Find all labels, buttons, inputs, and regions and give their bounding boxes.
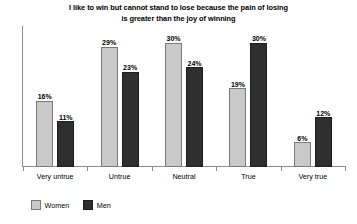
- bar-value-label: 6%: [297, 135, 307, 142]
- bar-group: 19%30%: [216, 26, 280, 167]
- bar-men-very-true[interactable]: 12%: [315, 117, 332, 167]
- category-label-very-untrue: Very untrue: [23, 172, 87, 181]
- chart-legend: Women Men: [31, 200, 111, 210]
- bar-value-label: 11%: [59, 114, 73, 121]
- chart-title-line-1: I like to win but cannot stand to lose b…: [0, 3, 357, 14]
- axis-tick: [345, 167, 346, 171]
- bar-value-label: 30%: [252, 35, 266, 42]
- chart-title-line-2: is greater than the joy of winning: [0, 14, 357, 25]
- bar-group: 16%11%: [23, 26, 87, 167]
- bar-women-very-true[interactable]: 6%: [294, 142, 311, 167]
- bar-value-label: 19%: [231, 81, 245, 88]
- bar-slot: 19%: [229, 26, 246, 167]
- bar-group: 6%12%: [281, 26, 345, 167]
- bar-men-neutral[interactable]: 24%: [186, 67, 203, 167]
- legend-item-women[interactable]: Women: [31, 200, 69, 210]
- bar-chart: I like to win but cannot stand to lose b…: [0, 0, 357, 224]
- axis-tick: [216, 167, 217, 171]
- chart-title: I like to win but cannot stand to lose b…: [0, 3, 357, 24]
- category-labels: Very untrueUntrueNeutralTrueVery true: [23, 172, 345, 181]
- bar-value-label: 29%: [102, 39, 116, 46]
- bar-value-label: 24%: [188, 60, 202, 67]
- axis-tick: [23, 167, 24, 171]
- bar-women-very-untrue[interactable]: 16%: [36, 101, 53, 167]
- bar-men-very-untrue[interactable]: 11%: [57, 121, 74, 167]
- bar-value-label: 16%: [38, 93, 52, 100]
- category-label-untrue: Untrue: [87, 172, 151, 181]
- bar-slot: 30%: [250, 26, 267, 167]
- category-label-true: True: [216, 172, 280, 181]
- category-label-very-true: Very true: [281, 172, 345, 181]
- legend-swatch-women-icon: [31, 200, 41, 210]
- legend-item-men[interactable]: Men: [83, 200, 110, 210]
- bar-slot: 24%: [186, 26, 203, 167]
- axis-tick: [152, 167, 153, 171]
- legend-label-women: Women: [45, 201, 70, 210]
- bar-women-true[interactable]: 19%: [229, 88, 246, 167]
- bar-slot: 30%: [165, 26, 182, 167]
- bar-groups: 16%11%29%23%30%24%19%30%6%12%: [23, 26, 345, 167]
- legend-label-men: Men: [97, 201, 111, 210]
- bar-group: 30%24%: [152, 26, 216, 167]
- bar-value-label: 23%: [123, 64, 137, 71]
- category-label-neutral: Neutral: [152, 172, 216, 181]
- bar-value-label: 12%: [316, 110, 330, 117]
- bar-slot: 6%: [294, 26, 311, 167]
- legend-swatch-men-icon: [83, 200, 93, 210]
- bar-women-neutral[interactable]: 30%: [165, 43, 182, 167]
- bar-value-label: 30%: [167, 35, 181, 42]
- bar-men-untrue[interactable]: 23%: [122, 72, 139, 167]
- bar-slot: 16%: [36, 26, 53, 167]
- bar-slot: 29%: [101, 26, 118, 167]
- bar-women-untrue[interactable]: 29%: [101, 47, 118, 167]
- axis-tick: [281, 167, 282, 171]
- axis-tick-marks: [23, 167, 345, 171]
- bar-slot: 23%: [122, 26, 139, 167]
- bar-men-true[interactable]: 30%: [250, 43, 267, 167]
- bar-group: 29%23%: [87, 26, 151, 167]
- bar-slot: 12%: [315, 26, 332, 167]
- bar-slot: 11%: [57, 26, 74, 167]
- axis-tick: [87, 167, 88, 171]
